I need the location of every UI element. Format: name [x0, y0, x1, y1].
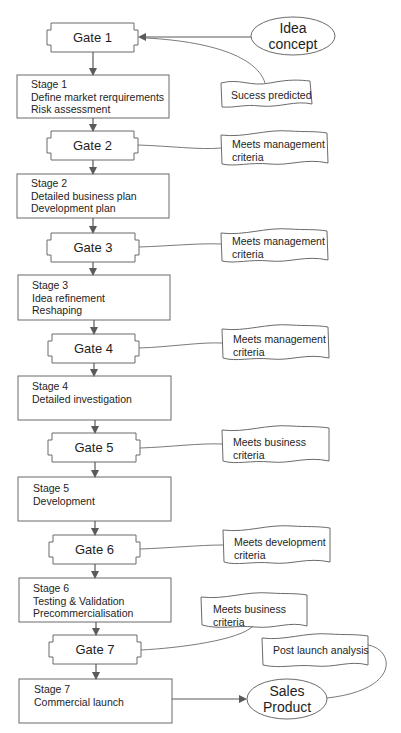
stage-7-line-1: Commercial launch	[34, 696, 124, 709]
stage-1-title: Stage 1	[31, 78, 164, 91]
stage-5-title: Stage 5	[33, 482, 95, 495]
idea-concept-label: Idea concept	[251, 20, 335, 52]
stage-7-text: Stage 7 Commercial launch	[34, 683, 124, 708]
connector-gate3-note	[139, 244, 221, 247]
note-gate7-text: Meets business criteria	[213, 603, 286, 628]
stage-5-text: Stage 5 Development	[33, 482, 95, 507]
note-gate6-line-2: criteria	[234, 549, 326, 562]
sales-product-line-2: Product	[247, 699, 327, 715]
connector-gate6-note	[140, 545, 223, 549]
note-gate4-text: Meets management criteria	[233, 333, 326, 358]
stage-6-line-2: Precommercialisation	[33, 607, 133, 620]
note-gate2-line-2: criteria	[232, 151, 325, 164]
note-gate6-line-1: Meets development	[234, 536, 326, 549]
sales-product-label: Sales Product	[247, 683, 327, 715]
note-gate3-line-2: criteria	[232, 248, 325, 261]
stage-2-line-2: Development plan	[31, 202, 137, 215]
note-gate3-text: Meets management criteria	[232, 235, 325, 260]
note-gate3-line-1: Meets management	[232, 235, 325, 248]
gate-1-label: Gate 1	[47, 30, 138, 45]
gate-3-label: Gate 3	[47, 240, 139, 255]
note-gate5-line-2: criteria	[233, 449, 306, 462]
stage-2-text: Stage 2 Detailed business plan Developme…	[31, 177, 137, 215]
note-gate7-line-2: criteria	[213, 616, 286, 629]
note-gate5-text: Meets business criteria	[233, 436, 306, 461]
stage-3-line-2: Reshaping	[32, 304, 105, 317]
gate-5-label: Gate 5	[48, 440, 140, 455]
connector-gate5-note	[140, 444, 222, 448]
gate-7-label: Gate 7	[49, 642, 141, 657]
stage-4-title: Stage 4	[32, 380, 132, 393]
stage-2-title: Stage 2	[31, 177, 137, 190]
note-success-text: Sucess predicted	[231, 89, 312, 102]
note-gate4-line-2: criteria	[233, 346, 326, 359]
note-gate2-text: Meets management criteria	[232, 138, 325, 163]
sales-product-line-1: Sales	[247, 683, 327, 699]
gate-6-label: Gate 6	[49, 542, 140, 557]
connector-gate4-note	[139, 343, 222, 348]
gate-4-label: Gate 4	[48, 341, 139, 356]
stage-7-title: Stage 7	[34, 683, 124, 696]
stage-4-line-1: Detailed investigation	[32, 393, 132, 406]
idea-concept-line-1: Idea	[251, 20, 335, 36]
stage-1-line-1: Define market rerquirements	[31, 91, 164, 104]
note-post-launch-text: Post launch analysis	[273, 644, 369, 657]
stage-1-text: Stage 1 Define market rerquirements Risk…	[31, 78, 164, 116]
note-gate2-line-1: Meets management	[232, 138, 325, 151]
note-gate4-line-1: Meets management	[233, 333, 326, 346]
connector-gate2-note	[138, 145, 221, 149]
connector-gate7-note	[141, 626, 253, 650]
idea-concept-line-2: concept	[251, 36, 335, 52]
note-gate7-line-1: Meets business	[213, 603, 286, 616]
stage-3-line-1: Idea refinement	[32, 292, 105, 305]
note-gate6-text: Meets development criteria	[234, 536, 326, 561]
stage-2-line-1: Detailed business plan	[31, 190, 137, 203]
stage-1-line-2: Risk assessment	[31, 103, 164, 116]
stage-3-title: Stage 3	[32, 279, 105, 292]
stage-6-title: Stage 6	[33, 582, 133, 595]
stage-6-text: Stage 6 Testing & Validation Precommerci…	[33, 582, 133, 620]
note-gate5-line-1: Meets business	[233, 436, 306, 449]
stage-3-text: Stage 3 Idea refinement Reshaping	[32, 279, 105, 317]
stage-4-text: Stage 4 Detailed investigation	[32, 380, 132, 405]
stage-5-line-1: Development	[33, 495, 95, 508]
stage-6-line-1: Testing & Validation	[33, 595, 133, 608]
gate-2-label: Gate 2	[47, 138, 138, 153]
